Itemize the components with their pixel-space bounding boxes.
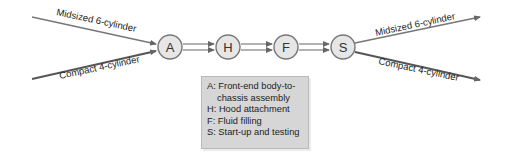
station-f-label: F bbox=[282, 40, 290, 55]
station-h-label: H bbox=[223, 40, 232, 55]
station-h: H bbox=[216, 35, 240, 59]
legend-row-s: S: Start-up and testing bbox=[207, 127, 308, 139]
legend-box: A: Front-end body-to- chassis assembly H… bbox=[201, 76, 309, 149]
input-label-compact: Compact 4-cylinder bbox=[58, 53, 140, 81]
legend-row-h: H: Hood attachment bbox=[207, 104, 308, 116]
legend-row-a-cont: chassis assembly bbox=[207, 93, 308, 105]
station-s: S bbox=[331, 35, 355, 59]
station-a-label: A bbox=[166, 40, 175, 55]
station-a: A bbox=[158, 35, 182, 59]
station-s-label: S bbox=[339, 40, 348, 55]
flow-arrows bbox=[183, 44, 329, 50]
station-f: F bbox=[274, 35, 298, 59]
output-label-compact: Compact 4-cylinder bbox=[378, 55, 460, 83]
input-label-midsized: Midsized 6-cylinder bbox=[56, 6, 138, 34]
legend-row-a: A: Front-end body-to- bbox=[207, 81, 308, 93]
legend-row-f: F: Fluid filling bbox=[207, 116, 308, 128]
